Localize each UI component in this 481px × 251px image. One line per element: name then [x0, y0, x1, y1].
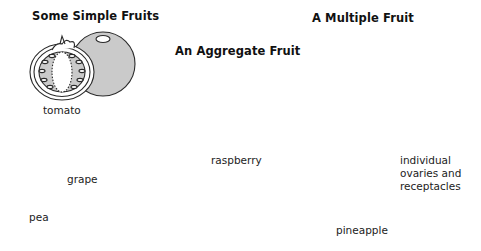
annotation-line-2: ovaries and: [400, 167, 461, 180]
tomato-illustration: [30, 32, 135, 100]
annotation-line-3: receptacles: [400, 180, 461, 193]
annotation-line-1: individual: [400, 154, 461, 167]
pea-label: pea: [29, 211, 49, 224]
pineapple-annotation: individual ovaries and receptacles: [400, 154, 461, 193]
raspberry-label: raspberry: [211, 154, 262, 167]
fruit-diagram: [0, 0, 481, 251]
tomato-label: tomato: [43, 104, 81, 117]
grape-label: grape: [67, 173, 98, 186]
pineapple-label: pineapple: [336, 224, 388, 237]
